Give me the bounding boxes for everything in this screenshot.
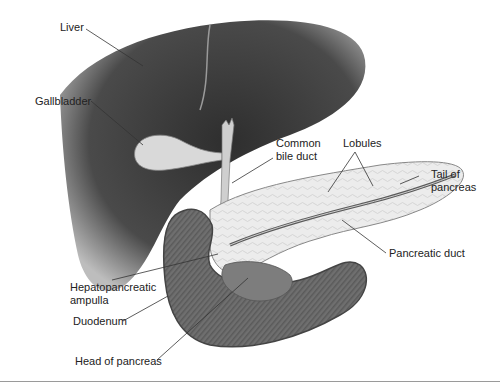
anatomy-illustration [0, 0, 500, 392]
bottom-divider [0, 381, 500, 382]
anatomy-diagram: Liver Gallbladder Common bile duct Lobul… [0, 0, 500, 392]
label-head-of-pancreas: Head of pancreas [75, 355, 162, 368]
label-pancreatic-duct: Pancreatic duct [389, 247, 465, 260]
label-common-bile-duct: Common bile duct [276, 137, 321, 163]
label-tail-of-pancreas: Tail of pancreas [431, 168, 476, 194]
label-hepatopancreatic-ampulla: Hepatopancreatic ampulla [70, 281, 156, 307]
label-duodenum: Duodenum [73, 315, 127, 328]
label-liver: Liver [60, 21, 84, 34]
label-gallbladder: Gallbladder [35, 95, 91, 108]
label-lobules: Lobules [343, 137, 382, 150]
